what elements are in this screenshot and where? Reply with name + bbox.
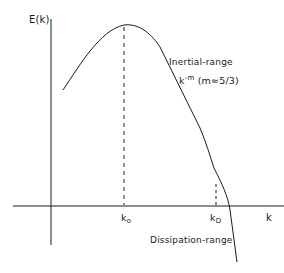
power-law-base: k — [179, 75, 185, 86]
power-law-exponent: -m — [185, 74, 195, 82]
k0-base: k — [121, 212, 127, 223]
inertial-range-label: Inertial-range — [169, 58, 233, 67]
power-law-note: (m≈5/3) — [198, 75, 239, 86]
x-axis-label: k — [266, 213, 272, 223]
kD-label: kD — [210, 213, 221, 223]
power-law-label: k-m (m≈5/3) — [179, 76, 239, 86]
energy-spectrum-diagram — [0, 0, 284, 273]
kD-base: k — [210, 212, 216, 223]
y-axis-label: E(k) — [29, 15, 50, 25]
kD-subscript: D — [216, 217, 222, 225]
dissipation-range-label: Dissipation-range — [150, 236, 233, 245]
k0-subscript: o — [127, 217, 131, 225]
k0-label: ko — [121, 213, 131, 223]
